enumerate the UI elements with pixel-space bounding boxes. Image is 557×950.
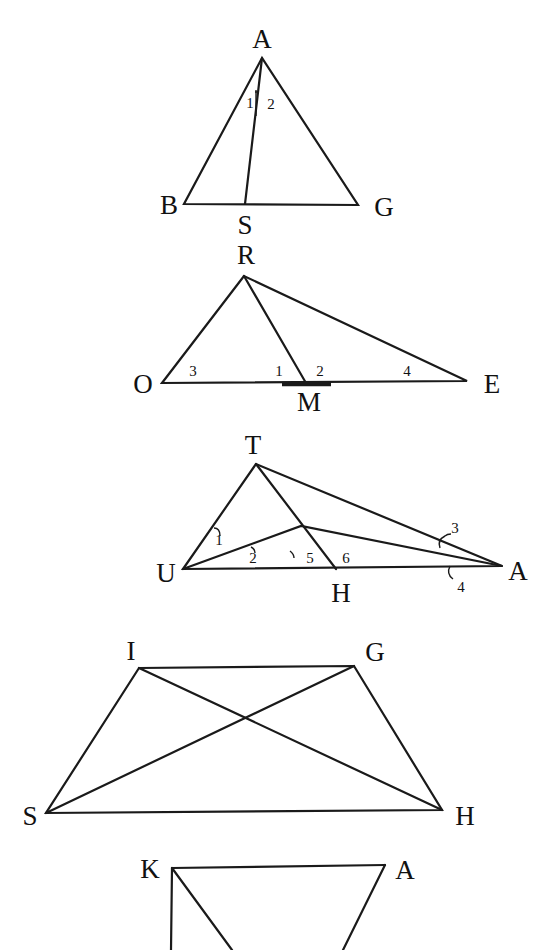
diagonal-ih [139,668,442,810]
trapezoid-outline [46,666,442,813]
angle-label-4: 4 [403,363,411,379]
angle-label-2: 2 [316,363,324,379]
vertex-label-a: A [252,24,272,54]
segment-a-down [343,865,385,950]
triangle-abg: A B G S 1 2 [160,24,394,240]
angle-label-5: 5 [306,550,314,566]
angle-label-4: 4 [457,579,465,595]
geometry-diagram: A B G S 1 2 R O E M 3 1 2 4 T U A H 1 2 … [0,0,557,950]
triangle-abg-outline [184,58,358,205]
angle-label-1: 1 [246,95,254,111]
figure-ka: K A [140,854,415,950]
vertex-label-e: E [484,369,501,399]
angle-label-2: 2 [267,96,275,112]
trapezoid-sigh: I G S H [22,636,474,831]
vertex-label-a: A [508,556,528,586]
angle-label-3: 3 [189,363,197,379]
segment-as [245,58,262,204]
segment-k-down [171,868,172,950]
vertex-label-h: H [455,801,475,831]
vertex-label-g: G [374,192,394,222]
angle-label-2: 2 [249,550,257,566]
vertex-label-g: G [365,637,385,667]
triangle-roe-outline [162,276,467,383]
vertex-label-s: S [237,210,252,240]
angle-label-6: 6 [342,550,350,566]
vertex-label-r: R [237,240,255,270]
angle-label-1: 1 [275,363,283,379]
angle-label-1: 1 [215,532,223,548]
vertex-label-s: S [22,801,37,831]
vertex-label-a: A [395,855,415,885]
vertex-label-b: B [160,190,178,220]
angle-label-3: 3 [451,520,459,536]
segment-k-diagonal [172,868,232,950]
vertex-label-i: I [127,636,136,666]
segment-ka [172,865,385,868]
vertex-label-m: M [297,387,321,417]
angle-arc-5 [290,551,294,558]
vertex-label-h: H [331,578,351,608]
vertex-label-k: K [140,854,160,884]
angle-arc-4 [449,566,453,579]
triangle-roe: R O E M 3 1 2 4 [133,240,500,417]
vertex-label-t: T [245,430,262,460]
vertex-label-o: O [133,369,153,399]
triangle-tua: T U A H 1 2 3 4 5 6 [156,430,528,608]
vertex-label-u: U [156,558,176,588]
